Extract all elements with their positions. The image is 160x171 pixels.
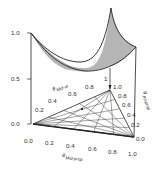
z-tick-0-5: 0.5 — [11, 75, 20, 82]
right-tick-0-2: 0.2 — [131, 121, 140, 128]
bottom-axis-label: θ Mid-prop — [62, 152, 84, 162]
right-axis-label-sub: Ad-prop — [141, 94, 152, 112]
bottom-tick-3: 0.6 — [88, 145, 97, 152]
left-back-tick-0-2: 0.2 — [35, 106, 44, 113]
bottom-tick-5: 1.0 — [128, 150, 137, 157]
right-tick-0-8: 0.8 — [118, 92, 127, 99]
bottom-tick-2: 0.4 — [66, 142, 75, 149]
apex-annotation: 1 — [104, 75, 108, 82]
right-tick-0-4: 0.4 — [127, 111, 136, 118]
bottom-tick-0: 0.0 — [24, 137, 33, 144]
ternary-surface-plot: 1.0 0.5 0.0 0.0 0.2 0.4 0.6 0.8 1.0 θ Mi… — [0, 0, 160, 171]
left-back-tick-0-8: 0.8 — [85, 83, 94, 90]
left-back-tick-0-6: 0.6 — [68, 90, 77, 97]
z-tick-1: 1.0 — [11, 29, 20, 36]
bottom-axis-label-sub: Mid-prop — [65, 155, 83, 162]
surface-back-edge — [31, 8, 111, 62]
right-tick-0-0: 0.0 — [136, 135, 145, 142]
apex-arrow-icon — [109, 85, 112, 90]
data-point-marker — [81, 108, 83, 110]
z-tick-0: 0.0 — [11, 120, 20, 127]
bottom-tick-1: 0.2 — [45, 139, 54, 146]
right-tick-1-0: 1.0 — [113, 83, 122, 90]
left-back-axis-label: θ Mid-at — [51, 81, 69, 94]
right-axis-label: θ Ad-prop — [140, 90, 154, 111]
z-axis-ticks — [27, 33, 31, 124]
left-back-tick-0-4: 0.4 — [48, 97, 57, 104]
bottom-tick-4: 0.8 — [108, 148, 117, 155]
right-tick-0-6: 0.6 — [122, 101, 131, 108]
